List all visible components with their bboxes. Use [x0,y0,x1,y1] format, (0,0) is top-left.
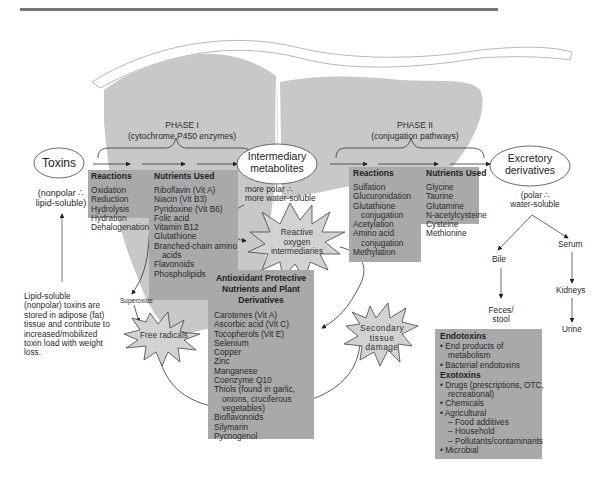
bile-label: Bile [492,255,506,264]
phase1-label: PHASE I (cytochrome P450 enzymes) [112,120,252,142]
toxin-sources: Endotoxins • End products of metabolism … [440,331,544,455]
phase1-subtitle: (cytochrome P450 enzymes) [112,131,252,142]
free-radicals-label: Free radicals [134,331,194,341]
secondary-damage-label: Secondary tissue damage [350,324,414,353]
intermediary-node: Intermediary metabolites [240,150,314,174]
phase1-title: PHASE I [112,120,252,131]
superoxide-label: Superoxide [120,296,153,305]
toxins-note: (nonpolar ∴ lipid-soluble) [28,188,94,208]
antioxidant-list: Carotenes (Vit A) Ascorbic acid (Vit C) … [214,311,295,441]
serum-label: Serum [558,240,582,249]
phase2-nutrients: Nutrients Used Glycine Taurine Glutamine… [426,168,487,239]
toxins-label: Toxins [42,156,76,170]
reactive-oxygen-label: Reactive oxygen intermediaries [262,228,332,257]
intermediary-note: more polar ∴ more water-soluble [245,185,316,204]
urine-label: Urine [562,325,582,334]
kidneys-label: Kidneys [556,286,586,295]
phase2-subtitle: (conjugation pathways) [350,131,480,142]
antioxidant-header: Antioxidant Protective Nutrients and Pla… [208,273,314,306]
phase2-label: PHASE II (conjugation pathways) [350,120,480,142]
excretory-note: (polar ∴ water-soluble [505,191,565,210]
phase1-nutrients: Nutrients Used Riboflavin (Vit A) Niacin… [154,171,237,279]
excretory-node: Excretory derivatives [492,152,568,176]
toxins-node: Toxins [34,156,84,170]
phase2-reactions: Reactions Sulfation Glucuronidation Glut… [353,168,411,257]
phase1-reactions: Reactions Oxidation Reduction Hydrolysis… [91,171,149,232]
phase2-title: PHASE II [350,120,480,131]
top-rule [20,8,498,11]
feces-label: Feces/ stool [486,306,516,325]
lipid-note: Lipid-soluble (nonpolar) toxins are stor… [24,292,110,358]
